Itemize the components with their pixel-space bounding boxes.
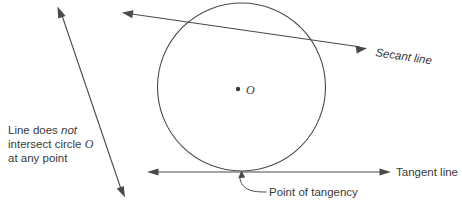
secant-arrowhead-right — [356, 46, 368, 54]
caption-emphasis-not: not — [61, 124, 78, 136]
non-intersecting-arrowhead-bottom — [117, 186, 125, 198]
secant-line-group — [122, 10, 367, 53]
caption-line-2: intersect circle O — [8, 137, 94, 151]
tangent-line-group — [147, 168, 391, 175]
caption-line-2-text: intersect circle — [8, 138, 85, 150]
caption-line-1: Line does not — [8, 124, 78, 136]
non-intersecting-arrowhead-top — [58, 7, 66, 19]
geometry-diagram: O Secant line Tangent line Point of tang… — [0, 0, 462, 211]
non-intersecting-line-group — [58, 7, 126, 198]
caption-circle-o: O — [85, 137, 94, 151]
circle-shape — [158, 3, 326, 171]
tangent-arrowhead-left — [147, 168, 159, 175]
non-intersecting-line — [62, 14, 122, 189]
secant-arrowhead-left — [122, 10, 134, 18]
caption-line-3: at any point — [8, 152, 68, 164]
non-intersecting-caption: Line does not intersect circle O at any … — [8, 124, 94, 164]
tangent-line-label: Tangent line — [396, 166, 458, 178]
tangent-arrowhead-right — [380, 168, 392, 175]
point-of-tangency-label: Point of tangency — [269, 186, 358, 198]
circle-center-dot — [236, 87, 240, 91]
circle-center-label: O — [246, 83, 255, 97]
secant-line — [130, 14, 359, 47]
secant-line-label: Secant line — [375, 46, 433, 66]
caption-line-1-text: Line does — [8, 124, 61, 136]
